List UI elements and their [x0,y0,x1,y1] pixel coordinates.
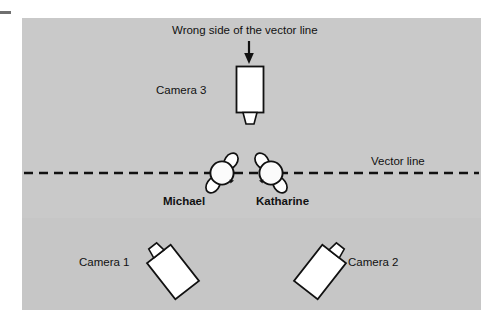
wrong-side-caption: Wrong side of the vector line [172,24,318,37]
vector-line-label: Vector line [371,155,425,168]
camera-1-icon [141,237,199,300]
camera-2-label: Camera 2 [348,256,399,269]
camera-3-label: Camera 3 [156,84,207,97]
camera-3-icon [237,67,264,125]
person-katharine-label: Katharine [256,195,309,208]
camera-2-icon [294,237,352,300]
person-michael-label: Michael [163,195,205,208]
figure-canvas: Wrong side of the vector line Camera 3 V… [0,0,497,329]
camera-1-label: Camera 1 [79,256,130,269]
wrong-side-arrow-icon [244,41,254,64]
